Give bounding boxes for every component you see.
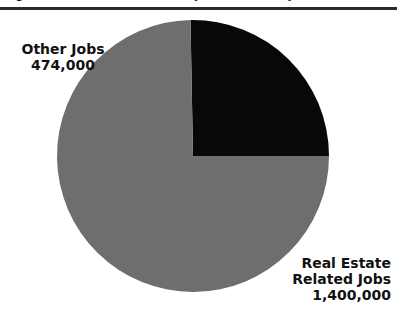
slice-label-other-jobs: Other Jobs 474,000	[7, 41, 119, 73]
figure-title-text: Figure 2. Real Estate Related Jobs vs. O…	[0, 0, 397, 3]
slice-label-other-jobs-name: Other Jobs	[7, 41, 119, 57]
pie-chart-figure: Figure 2. Real Estate Related Jobs vs. O…	[0, 0, 397, 309]
slice-label-real-estate-value: 1,400,000	[191, 287, 391, 303]
slice-label-real-estate-name-line2: Related Jobs	[191, 271, 391, 287]
slice-label-real-estate-name-line1: Real Estate	[191, 255, 391, 271]
slice-label-real-estate-related-jobs: Real Estate Related Jobs 1,400,000	[191, 255, 391, 303]
pie-slice-other-jobs[interactable]	[190, 20, 329, 156]
title-divider-rule	[0, 7, 397, 10]
slice-label-other-jobs-value: 474,000	[7, 57, 119, 73]
figure-title-clipped: Figure 2. Real Estate Related Jobs vs. O…	[0, 0, 397, 7]
